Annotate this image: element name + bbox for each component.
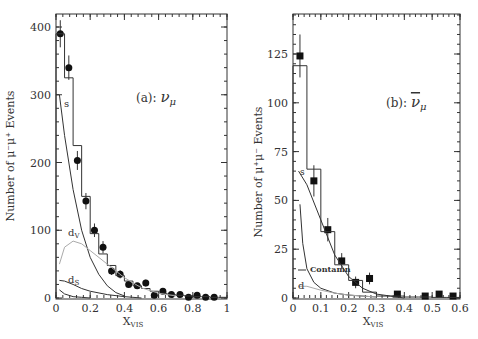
curve-s xyxy=(299,171,405,298)
y-axis-label-a: Number of μ⁻μ⁺ Events xyxy=(4,90,17,221)
annotation-s-a: s xyxy=(64,98,69,109)
data-point xyxy=(91,227,98,234)
data-point xyxy=(82,198,89,205)
data-point xyxy=(296,52,303,59)
y-tick-label: 125 xyxy=(267,48,288,61)
data-point xyxy=(422,293,429,300)
annotation-d: d xyxy=(298,280,305,291)
annotation-ds: dS xyxy=(68,274,79,287)
y-tick-label: 100 xyxy=(30,224,51,237)
curve-contamn xyxy=(300,204,377,297)
x-tick-label: 0.1 xyxy=(312,302,330,315)
series-a xyxy=(56,20,227,301)
data-point xyxy=(194,292,201,299)
x-tick-label: 0.3 xyxy=(368,302,386,315)
series-b xyxy=(293,34,460,299)
x-tick-label: 0.8 xyxy=(184,302,202,315)
data-point xyxy=(176,291,183,298)
x-tick-label: 0.5 xyxy=(423,302,441,315)
y-tick-label: 25 xyxy=(274,243,288,256)
axis-ticks-a: 00.20.40.60.810100200300400 xyxy=(30,14,231,315)
data-point xyxy=(74,157,81,164)
curve-dv xyxy=(59,241,175,296)
data-point xyxy=(366,275,373,282)
data-point xyxy=(450,293,457,300)
data-point xyxy=(65,64,72,71)
panel-a: 00.20.40.60.810100200300400 Number of μ⁻… xyxy=(4,14,231,329)
x-tick-label: 0.4 xyxy=(396,302,414,315)
x-tick-label: 0 xyxy=(290,302,297,315)
y-tick-label: 0 xyxy=(281,292,288,305)
y-tick-label: 200 xyxy=(30,157,51,170)
data-point xyxy=(100,244,107,251)
y-tick-label: 100 xyxy=(267,97,288,110)
y-tick-label: 50 xyxy=(274,194,288,207)
data-point xyxy=(185,294,192,301)
data-point xyxy=(436,291,443,298)
x-tick-label: 1 xyxy=(224,302,231,315)
x-axis-label-a: XVIS xyxy=(123,315,144,329)
mc-histogram xyxy=(56,34,227,298)
data-point xyxy=(310,177,317,184)
panel-b: 00.10.20.30.40.50.60255075100125 Number … xyxy=(252,14,469,329)
x-tick-label: 0.2 xyxy=(340,302,358,315)
panel-label-b: (b): νμ xyxy=(386,93,427,112)
x-tick-label: 0.4 xyxy=(116,302,134,315)
y-tick-label: 400 xyxy=(30,21,51,34)
curve-small xyxy=(59,290,90,298)
y-axis-label-b: Number of μ⁺μ⁻ Events xyxy=(252,106,265,237)
x-axis-label-b: XVIS xyxy=(363,315,384,329)
annotation-dv: dV xyxy=(68,227,80,240)
data-point xyxy=(142,280,149,287)
data-point xyxy=(108,267,115,274)
figure: 00.20.40.60.810100200300400 Number of μ⁻… xyxy=(0,0,478,339)
plot-frame-b xyxy=(293,14,460,299)
panel-label-a: (a): νμ xyxy=(136,88,176,107)
annotation-contamn: Contamn xyxy=(310,264,351,274)
x-tick-label: 0.2 xyxy=(81,302,99,315)
x-tick-label: 0 xyxy=(53,302,60,315)
y-tick-label: 300 xyxy=(30,89,51,102)
data-point xyxy=(202,294,209,301)
x-tick-label: 0.6 xyxy=(150,302,168,315)
y-tick-label: 0 xyxy=(44,292,51,305)
x-tick-label: 0.6 xyxy=(451,302,469,315)
y-tick-label: 75 xyxy=(274,146,288,159)
annotation-s-b: s xyxy=(300,167,305,177)
